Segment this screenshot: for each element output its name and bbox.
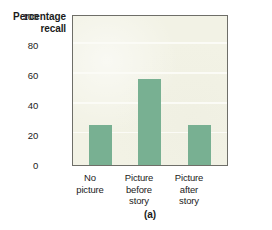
y-tick-label-100: 100 bbox=[8, 11, 38, 22]
figure-bar-chart-percentage-recall: Percentage recall 100 80 60 40 20 0 No p… bbox=[0, 0, 272, 230]
y-tick-label-40: 40 bbox=[8, 100, 38, 111]
x-tick-label-picture-after-story-line-2: after bbox=[157, 184, 221, 196]
bar-no-picture bbox=[89, 125, 112, 165]
y-tick-label-60: 60 bbox=[8, 70, 38, 81]
x-tick-label-picture-after-story: Picture after story bbox=[157, 172, 221, 207]
gridline-80 bbox=[73, 42, 227, 44]
plot-area bbox=[72, 15, 228, 166]
y-tick-label-20: 20 bbox=[8, 130, 38, 141]
figure-caption: (a) bbox=[72, 209, 228, 220]
bar-picture-after-story bbox=[188, 125, 211, 165]
x-tick-label-picture-after-story-line-3: story bbox=[157, 195, 221, 207]
y-axis-title-line-2: recall bbox=[0, 23, 66, 35]
x-tick-label-picture-after-story-line-1: Picture bbox=[157, 172, 221, 184]
gridline-60 bbox=[73, 72, 227, 74]
y-tick-label-0: 0 bbox=[8, 160, 38, 171]
bar-picture-before-story bbox=[138, 79, 161, 165]
y-tick-label-80: 80 bbox=[8, 40, 38, 51]
